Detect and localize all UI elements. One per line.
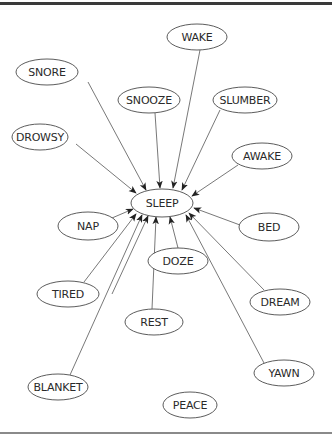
node-label: BLANKET xyxy=(33,381,83,394)
node-label: SNORE xyxy=(28,66,66,79)
node-drowsy: DROWSY xyxy=(12,124,68,150)
node-nap: NAP xyxy=(58,212,118,240)
association-diagram: WAKESNORESNOOZESLUMBERDROWSYAWAKENAPBEDD… xyxy=(0,0,332,444)
node-dream: DREAM xyxy=(250,289,310,315)
node-label: SLUMBER xyxy=(220,94,271,107)
node-label: DROWSY xyxy=(16,131,65,144)
node-label: DOZE xyxy=(163,255,194,268)
node-label: PEACE xyxy=(173,399,208,412)
edge-snooze-to-sleep xyxy=(155,113,160,188)
node-peace: PEACE xyxy=(163,392,217,418)
node-label: WAKE xyxy=(181,31,212,44)
node-label: BED xyxy=(258,221,280,234)
node-label: DREAM xyxy=(260,296,299,309)
edge-awake-to-sleep xyxy=(192,165,238,196)
node-wake: WAKE xyxy=(167,24,227,50)
node-snore: SNORE xyxy=(16,59,78,85)
node-label: AWAKE xyxy=(243,150,281,163)
node-label: REST xyxy=(140,316,168,329)
node-bed: BED xyxy=(239,213,299,241)
nodes-layer: WAKESNORESNOOZESLUMBERDROWSYAWAKENAPBEDD… xyxy=(12,24,314,418)
node-sleep: SLEEP xyxy=(131,189,193,217)
node-snooze: SNOOZE xyxy=(118,87,180,113)
node-label: YAWN xyxy=(267,367,299,380)
node-label: SLEEP xyxy=(146,197,179,210)
node-tired: TIRED xyxy=(37,281,99,307)
node-yawn: YAWN xyxy=(254,360,314,386)
edge-nap-to-sleep xyxy=(112,209,133,218)
node-awake: AWAKE xyxy=(232,143,292,169)
node-label: TIRED xyxy=(51,288,84,301)
edge-drowsy-to-sleep xyxy=(76,144,136,193)
edge-wake-to-sleep xyxy=(173,50,200,188)
node-rest: REST xyxy=(125,309,183,335)
node-label: SNOOZE xyxy=(126,94,172,107)
edge-doze-to-sleep xyxy=(170,217,178,248)
node-label: NAP xyxy=(77,220,99,233)
node-slumber: SLUMBER xyxy=(213,87,277,113)
node-doze: DOZE xyxy=(148,248,208,274)
edge-bed-to-sleep xyxy=(194,208,240,225)
edge-slumber-to-sleep xyxy=(182,110,220,190)
node-blanket: BLANKET xyxy=(28,374,88,400)
